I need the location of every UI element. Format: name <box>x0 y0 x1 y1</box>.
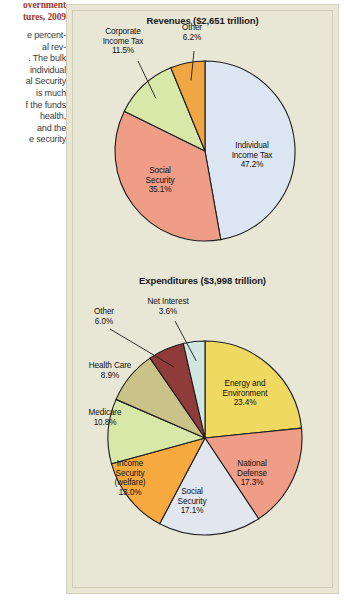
pie-slice-label-line: Medicare <box>89 408 122 418</box>
pie-slice-label-line: Energy and <box>223 379 268 389</box>
caption-column: overnment tures, 2009 e percent- al rev-… <box>0 0 68 146</box>
revenues-pie-chart: IndividualIncome Tax47.2%SocialSecurity3… <box>80 33 330 263</box>
pie-slice-label-line: 11.5% <box>103 46 144 56</box>
pie-slice-label-line: 13.0% <box>115 488 146 498</box>
pie-slice-label: Net Interest3.6% <box>147 297 188 316</box>
pie-slice-label: SocialSecurity17.1% <box>178 487 207 516</box>
caption-body-line: al Security <box>0 76 66 88</box>
caption-body-line: e percent- <box>0 30 66 42</box>
pie-slice-label: Other6.2% <box>182 23 202 42</box>
caption-body-line: . The bulk <box>0 53 66 65</box>
caption-title-line: tures, 2009 <box>0 12 66 24</box>
revenues-pie-svg <box>80 33 330 263</box>
pie-slice-label: Energy andEnvironment23.4% <box>223 379 268 408</box>
pie-slice-label: Medicare10.8% <box>89 408 122 427</box>
pie-slice-label-line: 10.8% <box>89 418 122 428</box>
pie-slice-label-line: Other <box>182 23 202 33</box>
caption-body-line: is much <box>0 88 66 100</box>
pie-slice-label-line: 6.2% <box>182 33 202 43</box>
caption-body-line: individual <box>0 65 66 77</box>
pie-slice-label-line: Defense <box>237 468 267 478</box>
pie-slice-label-line: Social <box>178 487 207 497</box>
pie-slice-label-line: 17.1% <box>178 506 207 516</box>
revenues-chart-title: Revenues ($2,651 trillion) <box>67 15 338 26</box>
pie-slice-label-line: Income Tax <box>103 36 144 46</box>
pie-slice-label-line: 23.4% <box>223 398 268 408</box>
pie-slice-label-line: National <box>237 459 267 469</box>
chart-panel: Revenues ($2,651 trillion) IndividualInc… <box>66 4 339 594</box>
pie-slice-label-line: 3.6% <box>147 307 188 317</box>
pie-slice-label-line: Net Interest <box>147 297 188 307</box>
caption-body-line: e security <box>0 134 66 146</box>
caption-title: overnment tures, 2009 <box>0 0 66 23</box>
pie-slice-label-line: Environment <box>223 388 268 398</box>
expenditures-pie-chart: Energy andEnvironment23.4%NationalDefens… <box>80 293 330 593</box>
pie-slice-label: SocialSecurity35.1% <box>146 166 175 195</box>
pie-slice-label-line: 35.1% <box>146 185 175 195</box>
pie-slice-label-line: Health Care <box>89 361 132 371</box>
expenditures-pie-svg <box>80 293 330 593</box>
caption-body-line: health, <box>0 111 66 123</box>
pie-slice-label-line: Social <box>146 166 175 176</box>
pie-slice-label: IncomeSecurity(welfare)13.0% <box>115 459 146 497</box>
caption-title-line: overnment <box>0 0 66 12</box>
pie-slice-label: CorporateIncome Tax11.5% <box>103 27 144 56</box>
caption-body-line: and the <box>0 123 66 135</box>
pie-slice-label: IndividualIncome Tax47.2% <box>232 141 273 170</box>
caption-body: e percent- al rev- . The bulk individual… <box>0 30 66 146</box>
pie-slice-label-line: 17.3% <box>237 478 267 488</box>
pie-slice-label-line: (welfare) <box>115 478 146 488</box>
pie-slice-label-line: Security <box>115 468 146 478</box>
pie-slice-label-line: Income <box>115 459 146 469</box>
pie-slice-label-line: 8.9% <box>89 371 132 381</box>
pie-slice-label-line: 47.2% <box>232 160 273 170</box>
caption-body-line: al rev- <box>0 42 66 54</box>
pie-slice-label-line: Corporate <box>103 27 144 37</box>
pie-slice-label: NationalDefense17.3% <box>237 459 267 488</box>
caption-body-line: f the funds <box>0 100 66 112</box>
pie-slice-label-line: Individual <box>232 141 273 151</box>
pie-slice-label-line: Security <box>178 496 207 506</box>
figure-root: overnment tures, 2009 e percent- al rev-… <box>0 0 344 604</box>
pie-slice-label-line: 6.0% <box>94 317 114 327</box>
pie-slice-label-line: Income Tax <box>232 150 273 160</box>
pie-slice-label: Health Care8.9% <box>89 361 132 380</box>
pie-slice-label-line: Other <box>94 307 114 317</box>
pie-slice-label: Other6.0% <box>94 307 114 326</box>
pie-slice-label-line: Security <box>146 175 175 185</box>
expenditures-chart-title: Expenditures ($3,998 trillion) <box>67 275 338 286</box>
